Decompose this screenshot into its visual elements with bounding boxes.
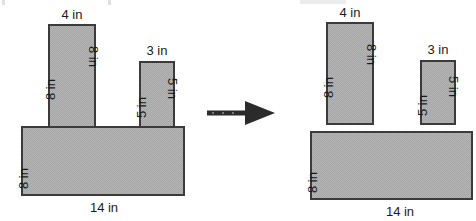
right-base-rectangle-shape [310,131,473,200]
left-base-shape [21,126,185,196]
clipped-text-artifact [2,0,5,5]
left-join-dashed-line-tall [49,126,95,128]
right-short-rectangle-width-label: 3 in [428,43,449,56]
left-base-width-label: 14 in [90,201,118,214]
left-tall-tab-shape [48,24,96,128]
left-short-tab-height-label-right: 5 in [166,78,179,99]
clipped-text-artifact [108,0,111,5]
right-tall-rectangle-width-label: 4 in [340,6,361,19]
left-base-height-label: 8 in [17,168,30,189]
clipped-text-artifact [300,0,346,4]
right-tall-rectangle-height-label-left: 8 in [322,77,335,98]
left-tall-tab-height-label-right: 8 in [87,46,100,67]
left-tall-tab-height-label-left: 8 in [44,79,57,100]
left-short-tab-height-label-left: 5 in [135,97,148,118]
right-base-rectangle-width-label: 14 in [386,205,414,218]
left-tall-tab-width-label: 4 in [62,8,83,21]
right-short-rectangle-height-label-right: 5 in [447,76,460,97]
diagram-canvas: 4 in 8 in 8 in 3 in 5 in 5 in 8 in 14 in… [0,0,476,221]
right-short-rectangle-height-label-left: 5 in [416,95,429,116]
left-short-tab-width-label: 3 in [147,44,168,57]
right-tall-rectangle-height-label-right: 8 in [365,44,378,65]
right-base-rectangle-height-label: 8 in [306,172,319,193]
right-arrow-icon [205,98,277,132]
left-join-dashed-line-short [140,126,174,128]
right-tall-rectangle-shape [326,22,374,125]
